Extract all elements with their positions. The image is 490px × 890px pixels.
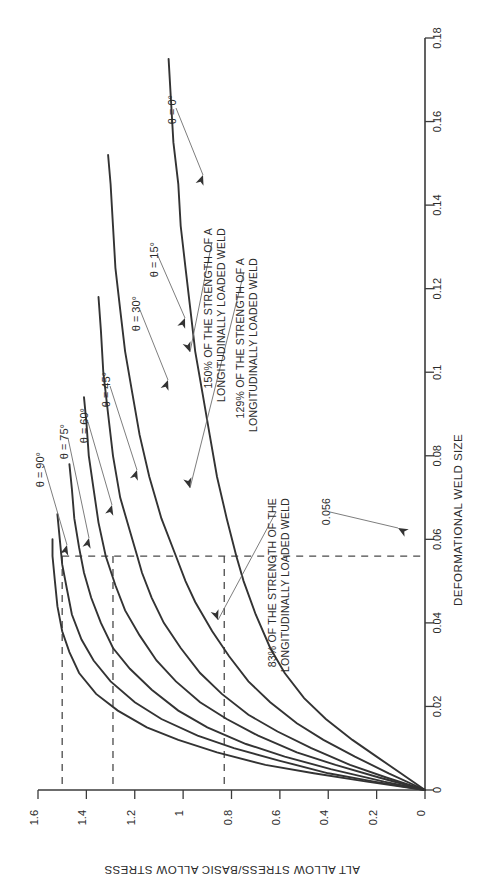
- y-tick-label: 0: [415, 810, 427, 816]
- x-tick-label: 0.08: [431, 445, 443, 466]
- angle-label-a60: θ = 60°: [78, 408, 90, 443]
- note-83-line1: 83% OF THE STRENGTH OF THE: [266, 498, 278, 667]
- note-129-line2: LONGITUDINALLY LOADED WELD: [247, 258, 259, 432]
- y-tick-label: 1.4: [76, 810, 88, 825]
- angle-label-a45: θ = 45°: [100, 372, 112, 407]
- x-axis-label: DEFORMATIONAL WELD SIZE: [452, 434, 464, 606]
- note-0056-line1: 0.056: [320, 498, 332, 525]
- angle-label-a0: θ = 0°: [166, 95, 178, 124]
- note-129-line1: 129% OF THE STRENGTH OF A: [234, 258, 246, 419]
- chart-background: [0, 0, 490, 890]
- x-tick-label: 0.16: [431, 111, 443, 132]
- x-tick-label: 0.04: [431, 612, 443, 633]
- angle-label-a30: θ = 30°: [130, 296, 142, 331]
- y-tick-label: 1: [173, 810, 185, 816]
- y-tick-label: 0.2: [367, 810, 379, 825]
- x-tick-label: 0.02: [431, 696, 443, 717]
- x-tick-label: 0: [431, 787, 443, 793]
- x-tick-label: 0.12: [431, 278, 443, 299]
- weld-strength-chart: 00.020.040.060.080.10.120.140.160.1800.2…: [0, 0, 490, 890]
- y-tick-label: 0.6: [270, 810, 282, 825]
- note-150-line1: 150% OF THE STRENGTH OF A: [202, 228, 214, 389]
- note-150-line2: LONGITUDINALLY LOADED WELD: [215, 228, 227, 402]
- chart-canvas: 00.020.040.060.080.10.120.140.160.1800.2…: [0, 0, 490, 890]
- angle-label-a90: θ = 90°: [34, 452, 46, 487]
- x-tick-label: 0.14: [431, 194, 443, 215]
- x-tick-label: 0.06: [431, 529, 443, 550]
- y-tick-label: 1.6: [28, 810, 40, 825]
- y-axis-label: ALT ALLOW STRESS/BASIC ALLOW STRESS: [104, 864, 360, 876]
- y-tick-label: 0.4: [318, 810, 330, 825]
- angle-label-a15: θ = 15°: [148, 242, 160, 277]
- y-tick-label: 1.2: [125, 810, 137, 825]
- angle-label-a75: θ = 75°: [58, 424, 70, 459]
- x-tick-label: 0.18: [431, 27, 443, 48]
- x-tick-label: 0.1: [431, 365, 443, 380]
- note-83-line2: LONGITUDINALLY LOADED WELD: [279, 498, 291, 672]
- y-tick-label: 0.8: [222, 810, 234, 825]
